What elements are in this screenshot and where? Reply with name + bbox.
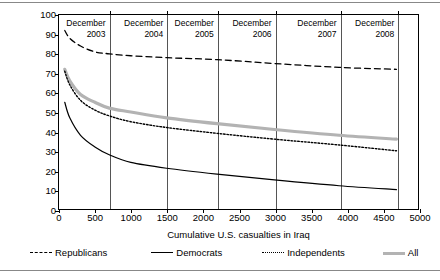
x-tick-label: 1500 <box>157 213 178 223</box>
x-tick-label: 4500 <box>373 213 394 223</box>
top-divider-rule <box>0 2 440 3</box>
x-tick-mark <box>420 209 421 213</box>
legend-label: Independents <box>287 247 345 258</box>
legend-item-all[interactable]: All <box>383 247 419 258</box>
legend-item-republicans[interactable]: Republicans <box>30 247 107 258</box>
legend-label: Republicans <box>55 247 107 258</box>
legend-swatch-dashed-icon <box>30 248 52 256</box>
x-tick-mark <box>312 209 313 213</box>
x-tick-label: 3500 <box>301 213 322 223</box>
x-tick-mark <box>95 209 96 213</box>
x-tick-mark <box>384 209 385 213</box>
bottom-divider-rule <box>0 270 440 271</box>
x-tick-mark <box>167 209 168 213</box>
legend-swatch-thick-icon <box>383 248 405 256</box>
x-tick-mark <box>203 209 204 213</box>
x-tick-label: 1000 <box>121 213 142 223</box>
x-tick-label: 4000 <box>337 213 358 223</box>
x-tick-label: 0 <box>56 213 61 223</box>
plot-area: 0102030405060708090100 05001000150020002… <box>58 14 419 210</box>
series-line-all <box>65 69 397 139</box>
legend-label: Democrats <box>176 247 222 258</box>
x-axis-title: Cumulative U.S. casualties in Iraq <box>58 229 419 240</box>
x-tick-mark <box>240 209 241 213</box>
x-tick-label: 2000 <box>193 213 214 223</box>
legend-swatch-solid-icon <box>151 248 173 256</box>
x-tick-mark <box>131 209 132 213</box>
x-tick-mark <box>348 209 349 213</box>
legend-label: All <box>408 247 419 258</box>
chart-legend: RepublicansDemocratsIndependentsAll <box>30 244 422 260</box>
x-tick-label: 2500 <box>229 213 250 223</box>
x-tick-mark <box>276 209 277 213</box>
x-tick-label: 500 <box>87 213 103 223</box>
series-line-republicans <box>65 31 397 70</box>
x-tick-label: 3000 <box>265 213 286 223</box>
x-tick-label: 5000 <box>409 213 430 223</box>
legend-item-democrats[interactable]: Democrats <box>151 247 222 258</box>
y-tick-label: 100 <box>40 10 56 20</box>
series-line-independents <box>65 71 397 151</box>
legend-item-independents[interactable]: Independents <box>262 247 345 258</box>
chart-figure: Percentage supporting the war Cumulative… <box>0 0 440 280</box>
legend-swatch-dotted-icon <box>262 248 284 256</box>
x-tick-mark <box>59 209 60 213</box>
series-curves <box>59 15 418 209</box>
